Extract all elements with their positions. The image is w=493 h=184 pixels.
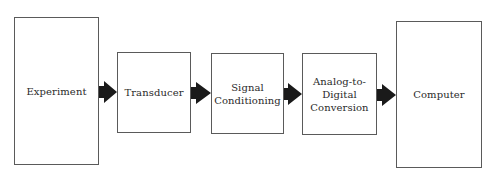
arrows-layer	[0, 0, 493, 184]
arrow-right-icon	[377, 84, 396, 106]
arrow-right-icon	[284, 83, 302, 105]
arrow-right-icon	[191, 82, 211, 104]
arrow-right-icon	[99, 81, 117, 103]
